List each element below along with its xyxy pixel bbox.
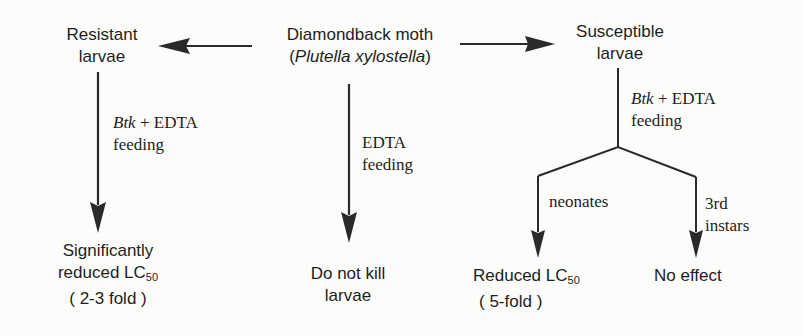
node-susceptible-line1: Susceptible [560,21,680,43]
edge-label-instars-line2: instars [705,215,749,237]
node-neonate-outcome: Reduced LC50 ( 5-fold ) [473,265,580,313]
edge-label-instars: 3rd instars [705,193,749,237]
edge-label-edta-line1: EDTA [362,132,413,154]
arrow-root-to-resistant [158,38,252,54]
outcome-resistant-line3: ( 2-3 fold ) [38,288,178,310]
edge-label-resistant-line1: Btk + EDTA [113,112,198,134]
edge-label-instars-line1: 3rd [705,193,749,215]
outcome-resistant-line2: reduced LC50 [38,262,178,288]
outcome-edta-line2: larvae [293,285,403,307]
lc-subscript: 50 [568,274,580,286]
lc-subscript: 50 [146,271,158,283]
arrow-root-to-susceptible [460,36,555,52]
edta-text: + EDTA [654,89,716,108]
node-susceptible-larvae: Susceptible larvae [560,21,680,65]
arrow-branch-to-instars [689,177,703,258]
node-resistant-larvae: Resistant larvae [52,24,152,68]
btk-italic: Btk [631,89,654,108]
edge-label-resistant-treatment: Btk + EDTA feeding [113,112,198,156]
node-instar-outcome: No effect [654,265,722,287]
node-root-line1: Diamondback moth [262,24,458,46]
species-name: Plutella xylostella [295,47,425,66]
outcome-neonate-line1: Reduced LC50 [473,265,580,291]
lc-text: Reduced LC [473,266,568,285]
edge-label-resistant-line2: feeding [113,134,198,156]
arrow-resistant-to-outcome [90,72,106,233]
lc-text: reduced LC [58,263,146,282]
node-resistant-line2: larvae [52,46,152,68]
edge-label-susceptible-line2: feeding [631,110,716,132]
arrow-root-to-edta-outcome [341,84,357,243]
edge-label-susceptible-line1: Btk + EDTA [631,88,716,110]
node-resistant-line1: Resistant [52,24,152,46]
paren-close: ) [425,47,431,66]
outcome-neonate-line2: ( 5-fold ) [473,291,580,313]
outcome-edta-line1: Do not kill [293,263,403,285]
arrow-branch-to-neonates [531,176,545,258]
node-root-line2: (Plutella xylostella) [262,46,458,68]
flow-diagram: Diamondback moth (Plutella xylostella) R… [0,0,803,336]
btk-italic: Btk [113,113,136,132]
node-edta-outcome: Do not kill larvae [293,263,403,307]
outcome-resistant-line1: Significantly [38,240,178,262]
edge-label-susceptible-treatment: Btk + EDTA feeding [631,88,716,132]
edta-text: + EDTA [136,113,198,132]
node-diamondback-moth: Diamondback moth (Plutella xylostella) [262,24,458,68]
outcome-instar-line1: No effect [654,265,722,287]
node-susceptible-line2: larvae [560,43,680,65]
edge-label-edta-line2: feeding [362,154,413,176]
edge-label-edta-treatment: EDTA feeding [362,132,413,176]
node-resistant-outcome: Significantly reduced LC50 ( 2-3 fold ) [38,240,178,310]
edge-label-neonates: neonates [549,191,608,213]
